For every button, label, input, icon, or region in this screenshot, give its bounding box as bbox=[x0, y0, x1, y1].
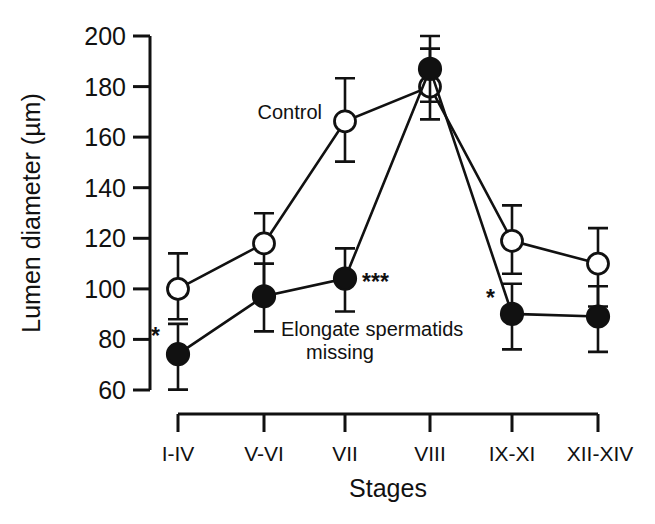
control-point-v-vi bbox=[254, 233, 275, 254]
treatment-point-i-iv bbox=[167, 343, 189, 365]
line-chart: 200 180 160 140 120 100 80 60 Lumen diam… bbox=[0, 0, 655, 524]
x-tick-label-xii-xiv: XII-XIV bbox=[567, 442, 634, 465]
treatment-point-viii bbox=[419, 58, 441, 80]
control-point-ix-xi bbox=[502, 230, 523, 251]
y-axis-title: Lumen diameter (µm) bbox=[17, 93, 45, 332]
treatment-line bbox=[178, 69, 598, 354]
control-point-xii-xiv bbox=[588, 253, 609, 274]
y-tick-label-80: 80 bbox=[98, 325, 126, 353]
control-series-label: Control bbox=[258, 101, 322, 123]
treatment-point-v-vi bbox=[253, 285, 275, 307]
y-axis: 200 180 160 140 120 100 80 60 bbox=[84, 22, 150, 404]
control-point-i-iv bbox=[168, 278, 189, 299]
x-axis: I-IV V-VI VII VIII IX-XI XII-XIV bbox=[162, 414, 634, 465]
x-tick-label-ix-xi: IX-XI bbox=[489, 442, 536, 465]
x-tick-label-vii: VII bbox=[332, 442, 358, 465]
x-axis-title: Stages bbox=[349, 474, 427, 502]
y-tick-label-60: 60 bbox=[98, 376, 126, 404]
y-tick-label-180: 180 bbox=[84, 73, 126, 101]
significance-marker-ix-xi: * bbox=[486, 285, 495, 311]
x-axis-bracket bbox=[178, 414, 598, 432]
significance-marker-i-iv: * bbox=[151, 323, 160, 349]
y-tick-label-200: 200 bbox=[84, 22, 126, 50]
treatment-point-xii-xiv bbox=[587, 306, 609, 328]
y-tick-label-160: 160 bbox=[84, 123, 126, 151]
x-tick-label-viii: VIII bbox=[414, 442, 446, 465]
treatment-series-label-line1: Elongate spermatids bbox=[281, 318, 463, 340]
treatment-series-label-line2: missing bbox=[306, 341, 374, 363]
x-tick-label-v-vi: V-VI bbox=[244, 442, 284, 465]
figure-container: 200 180 160 140 120 100 80 60 Lumen diam… bbox=[0, 0, 655, 524]
y-tick-label-100: 100 bbox=[84, 275, 126, 303]
x-tick-label-i-iv: I-IV bbox=[162, 442, 195, 465]
significance-marker-vii: *** bbox=[362, 269, 389, 295]
control-line bbox=[178, 87, 598, 289]
y-tick-label-120: 120 bbox=[84, 224, 126, 252]
treatment-point-ix-xi bbox=[501, 303, 523, 325]
control-point-vii bbox=[335, 111, 356, 132]
y-tick-label-140: 140 bbox=[84, 174, 126, 202]
treatment-point-vii bbox=[334, 268, 356, 290]
